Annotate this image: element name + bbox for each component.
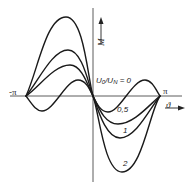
curve-label-0-5: 0,5: [117, 106, 128, 114]
curve-label-2: 2: [123, 160, 127, 168]
x-tick-pos-pi: π: [163, 87, 168, 96]
curve-label-1: 1: [123, 127, 127, 135]
parameter-label: U0/UN = 0: [96, 77, 131, 85]
x-axis-label: ϑ: [166, 101, 170, 110]
y-axis-label: M: [97, 39, 106, 47]
x-tick-neg-pi: -π: [9, 88, 17, 97]
torque-angle-chart: [0, 0, 190, 185]
